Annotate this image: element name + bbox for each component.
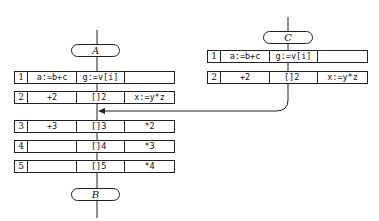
flowchart-diagram: A 1 a:=b+c g:=v[i] 2 +2 []2 x:=y*z 3 +3 … — [0, 0, 379, 221]
row-cell-2: []2 — [77, 92, 125, 103]
start-node-c-label: C — [284, 32, 292, 43]
row-cell-2: g:=v[i] — [270, 51, 318, 62]
row-number: 1 — [15, 72, 28, 83]
row-cell-2: []4 — [77, 141, 125, 152]
row-cell-3 — [318, 51, 367, 62]
row-cell-3: *2 — [125, 121, 174, 132]
right-row-1: 1 a:=b+c g:=v[i] — [207, 50, 368, 63]
start-node-c: C — [263, 31, 313, 44]
row-cell-1: a:=b+c — [28, 72, 77, 83]
end-node-b: B — [71, 188, 120, 201]
connector-lines — [0, 0, 379, 221]
row-cell-3: *3 — [125, 141, 174, 152]
row-cell-3: x:=y*z — [318, 72, 367, 83]
row-number: 5 — [15, 161, 28, 172]
row-cell-3: *4 — [125, 161, 174, 172]
row-cell-3: x:=y*z — [125, 92, 174, 103]
row-cell-2: []5 — [77, 161, 125, 172]
row-cell-2: []2 — [270, 72, 318, 83]
row-cell-3 — [125, 72, 174, 83]
start-node-a: A — [71, 44, 120, 57]
row-cell-2: []3 — [77, 121, 125, 132]
left-row-2: 2 +2 []2 x:=y*z — [14, 91, 175, 104]
left-row-3: 3 +3 []3 *2 — [14, 120, 175, 133]
row-cell-1 — [28, 141, 77, 152]
row-cell-1: +3 — [28, 121, 77, 132]
left-row-1: 1 a:=b+c g:=v[i] — [14, 71, 175, 84]
row-number: 4 — [15, 141, 28, 152]
right-row-2: 2 +2 []2 x:=y*z — [207, 71, 368, 84]
row-number: 2 — [208, 72, 221, 83]
row-number: 1 — [208, 51, 221, 62]
row-cell-1: a:=b+c — [221, 51, 270, 62]
row-number: 2 — [15, 92, 28, 103]
row-cell-2: g:=v[i] — [77, 72, 125, 83]
row-cell-1 — [28, 161, 77, 172]
end-node-b-label: B — [92, 189, 99, 200]
row-cell-1: +2 — [28, 92, 77, 103]
start-node-a-label: A — [92, 45, 99, 56]
row-cell-1: +2 — [221, 72, 270, 83]
row-number: 3 — [15, 121, 28, 132]
left-row-5: 5 []5 *4 — [14, 160, 175, 173]
left-row-4: 4 []4 *3 — [14, 140, 175, 153]
